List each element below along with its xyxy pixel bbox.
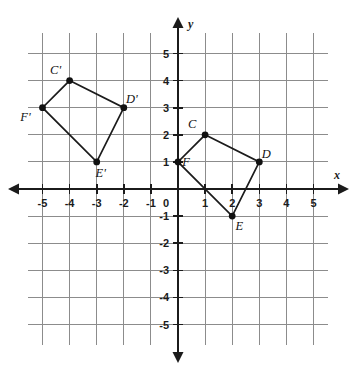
y-axis-arrow-bottom	[173, 352, 184, 363]
vertex-label: D	[261, 147, 271, 161]
vertex-label: E	[234, 219, 243, 233]
x-tick-label: -4	[65, 197, 76, 209]
y-tick-label: -1	[159, 210, 169, 222]
x-tick-label: 4	[283, 197, 290, 209]
coordinate-plane-figure: -5-4-3-2-11234554321-1-2-3-4-50 xy CDEFC…	[0, 0, 357, 374]
x-tick-label: 1	[202, 197, 208, 209]
x-tick-label: 3	[256, 197, 262, 209]
vertex-point	[202, 131, 209, 138]
y-tick-label: 2	[163, 129, 169, 141]
x-tick-label: -5	[38, 197, 48, 209]
origin-label: 0	[163, 197, 169, 209]
x-tick-label: -2	[119, 197, 129, 209]
vertex-point	[39, 104, 46, 111]
vertex-point	[175, 159, 182, 166]
vertex-point	[93, 159, 100, 166]
x-tick-label: 5	[310, 197, 316, 209]
x-tick-label: -3	[92, 197, 102, 209]
vertex-label: E'	[95, 166, 107, 180]
vertex-label: F'	[19, 110, 31, 124]
vertex-label: C'	[50, 63, 61, 77]
x-tick-label: -1	[146, 197, 156, 209]
y-tick-label: 4	[163, 75, 170, 87]
x-tick-label: 2	[229, 197, 235, 209]
vertex-label: C	[188, 117, 197, 131]
y-tick-label: -4	[159, 291, 170, 303]
y-tick-label: -3	[159, 264, 169, 276]
vertex-label: F	[181, 155, 190, 169]
y-tick-label: 3	[163, 102, 169, 114]
y-axis-arrow-top	[173, 17, 184, 28]
polygon-outline	[178, 135, 259, 216]
y-tick-label: 5	[163, 48, 169, 60]
coordinate-plane-svg: -5-4-3-2-11234554321-1-2-3-4-50 xy CDEFC…	[0, 0, 357, 374]
polygon-outline	[43, 81, 124, 162]
y-axis-label: y	[186, 17, 194, 31]
y-tick-label: -2	[159, 237, 169, 249]
x-axis-label: x	[333, 168, 340, 182]
vertex-label: D'	[125, 92, 138, 106]
vertex-point	[66, 77, 73, 84]
y-tick-label: 1	[163, 156, 169, 168]
x-axis-arrow-right	[338, 184, 349, 195]
x-axis-arrow-left	[8, 184, 19, 195]
y-tick-label: -5	[159, 319, 169, 331]
